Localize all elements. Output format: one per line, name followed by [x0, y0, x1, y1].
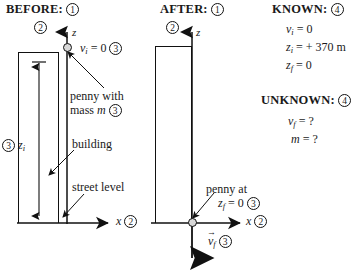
- after-vf-subscript: f: [213, 239, 215, 249]
- before-height-label: 3 zi: [2, 138, 25, 153]
- known-item-1: zi = + 370 m: [286, 40, 346, 55]
- unknown-item-0-value: = ?: [299, 114, 314, 128]
- after-zf-subscript: f: [223, 201, 225, 211]
- before-penny-caption-line2: mass m 3: [70, 103, 124, 117]
- before-height-arrow: [32, 58, 46, 224]
- before-penny-mass-symbol: m: [97, 103, 106, 117]
- after-penny-caption-line2: zf = 0 3: [218, 196, 260, 211]
- after-axis-step-badge: 2: [166, 21, 179, 34]
- before-penny-caption: penny with mass m 3: [70, 89, 124, 117]
- unknown-item-1-value: = ?: [303, 132, 318, 146]
- before-penny-leader-line: [62, 48, 108, 94]
- known-title: KNOWN: 4: [272, 2, 344, 17]
- before-building-label: building: [72, 137, 112, 151]
- after-zf-value: = 0: [228, 196, 244, 210]
- known-item-2: zf = 0: [286, 58, 346, 73]
- known-step-badge: 4: [331, 3, 344, 16]
- before-axis-step-badge: 2: [34, 21, 47, 34]
- after-title-step-badge: 1: [211, 3, 224, 16]
- before-x-axis-step-badge: 2: [124, 215, 137, 228]
- after-vf-symbol-group: → v: [208, 234, 213, 248]
- before-vi-step-badge: 3: [109, 42, 122, 55]
- before-height-step-badge: 3: [2, 139, 15, 152]
- unknown-item-1: m = ?: [291, 132, 318, 147]
- unknown-title-text: UNKNOWN:: [261, 93, 335, 107]
- after-final-velocity-label: → vf 3: [208, 234, 232, 249]
- before-panel-title: BEFORE: 1: [6, 2, 79, 17]
- known-item-2-value: = 0: [296, 58, 312, 72]
- after-x-axis-label-group: x 2: [246, 214, 267, 228]
- after-vf-step-badge: 3: [219, 235, 232, 248]
- before-x-axis: [16, 215, 120, 231]
- known-item-2-subscript: f: [291, 63, 293, 73]
- after-penny-caption-line1: penny at: [206, 182, 260, 196]
- before-penny-mass-word: mass: [70, 103, 94, 117]
- known-list: vi = 0 zi = + 370 m zf = 0: [286, 22, 346, 73]
- before-title-text: BEFORE:: [6, 2, 63, 16]
- known-item-0-subscript: i: [291, 27, 293, 37]
- after-z-axis-label: z: [196, 26, 200, 39]
- before-x-axis-label-group: x 2: [116, 214, 137, 228]
- after-x-axis-step-badge: 2: [254, 215, 267, 228]
- after-penny: [188, 218, 197, 227]
- after-title-text: AFTER:: [160, 2, 208, 16]
- physics-problem-sketch: BEFORE: 1 2 z vi = 0 3 penny with: [0, 0, 364, 273]
- known-title-text: KNOWN:: [272, 2, 327, 16]
- unknown-item-0-subscript: f: [293, 119, 295, 129]
- before-building-leader-line: [44, 148, 78, 182]
- unknown-item-1-symbol: m: [291, 132, 300, 146]
- before-penny: [63, 43, 72, 52]
- before-penny-caption-step-badge: 3: [109, 104, 122, 117]
- unknown-list: vf = ? m = ?: [288, 114, 318, 147]
- unknown-title: UNKNOWN: 4: [261, 93, 351, 108]
- after-panel-title: AFTER: 1: [160, 2, 224, 17]
- known-item-0-value: = 0: [297, 22, 313, 36]
- after-zf-step-badge: 3: [247, 197, 260, 210]
- after-x-axis-label: x: [246, 214, 251, 228]
- after-final-velocity-vector: [182, 224, 204, 272]
- before-z-axis-label: z: [72, 26, 76, 39]
- before-x-axis-label: x: [116, 214, 121, 228]
- unknown-step-badge: 4: [338, 94, 351, 107]
- vector-arrow-icon: →: [207, 227, 216, 238]
- before-penny-caption-line1: penny with: [70, 89, 124, 103]
- known-item-1-value: = + 370 m: [296, 40, 346, 54]
- before-title-step-badge: 1: [66, 3, 79, 16]
- after-penny-caption: penny at zf = 0 3: [206, 182, 260, 211]
- known-item-0: vi = 0: [286, 22, 346, 37]
- before-height-subscript: i: [23, 143, 25, 153]
- known-item-1-subscript: i: [291, 45, 293, 55]
- unknown-item-0: vf = ?: [288, 114, 318, 129]
